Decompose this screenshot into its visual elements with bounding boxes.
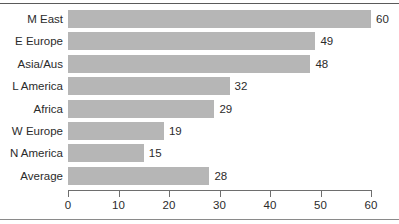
x-axis-tick-label: 50 bbox=[314, 198, 327, 212]
bottom-divider-rule bbox=[0, 219, 399, 220]
x-axis-tick-label: 10 bbox=[112, 198, 125, 212]
bar-row: L America32 bbox=[0, 75, 399, 97]
bar-value-label: 48 bbox=[315, 53, 328, 75]
bar-row: M East60 bbox=[0, 8, 399, 30]
category-label: W Europe bbox=[0, 120, 63, 142]
bar-row: Average28 bbox=[0, 165, 399, 187]
bar bbox=[68, 10, 371, 28]
plot-area: M East60E Europe49Asia/Aus48L America32A… bbox=[0, 8, 399, 188]
x-axis-tick-label: 20 bbox=[163, 198, 176, 212]
bar-row: E Europe49 bbox=[0, 30, 399, 52]
x-axis-tick bbox=[169, 190, 170, 197]
x-axis-tick-label: 0 bbox=[65, 198, 71, 212]
x-axis-tick-label: 60 bbox=[365, 198, 378, 212]
x-axis-tick-label: 40 bbox=[264, 198, 277, 212]
bar-value-label: 60 bbox=[376, 8, 389, 30]
bar bbox=[68, 100, 214, 118]
category-label: E Europe bbox=[0, 30, 63, 52]
bar-value-label: 15 bbox=[149, 142, 162, 164]
category-label: N America bbox=[0, 142, 63, 164]
category-label: L America bbox=[0, 75, 63, 97]
bar-value-label: 32 bbox=[235, 75, 248, 97]
bar bbox=[68, 167, 209, 185]
bar-row: N America15 bbox=[0, 142, 399, 164]
bar-row: W Europe19 bbox=[0, 120, 399, 142]
bar-value-label: 29 bbox=[219, 98, 232, 120]
x-axis-tick bbox=[68, 190, 69, 197]
top-divider-rule bbox=[0, 3, 399, 4]
bar-value-label: 28 bbox=[214, 165, 227, 187]
category-label: Asia/Aus bbox=[0, 53, 63, 75]
horizontal-bar-chart: M East60E Europe49Asia/Aus48L America32A… bbox=[0, 0, 399, 224]
x-axis-tick bbox=[371, 190, 372, 197]
bar-value-label: 19 bbox=[169, 120, 182, 142]
x-axis-tick bbox=[119, 190, 120, 197]
bar-row: Asia/Aus48 bbox=[0, 53, 399, 75]
x-axis-tick bbox=[220, 190, 221, 197]
category-label: Average bbox=[0, 165, 63, 187]
bar bbox=[68, 122, 164, 140]
x-axis-tick-label: 30 bbox=[213, 198, 226, 212]
category-label: M East bbox=[0, 8, 63, 30]
bar bbox=[68, 32, 315, 50]
x-axis-tick bbox=[321, 190, 322, 197]
x-axis-tick bbox=[270, 190, 271, 197]
bar bbox=[68, 77, 230, 95]
category-label: Africa bbox=[0, 98, 63, 120]
bar-row: Africa29 bbox=[0, 98, 399, 120]
bar-value-label: 49 bbox=[320, 30, 333, 52]
bar bbox=[68, 144, 144, 162]
bar bbox=[68, 55, 310, 73]
